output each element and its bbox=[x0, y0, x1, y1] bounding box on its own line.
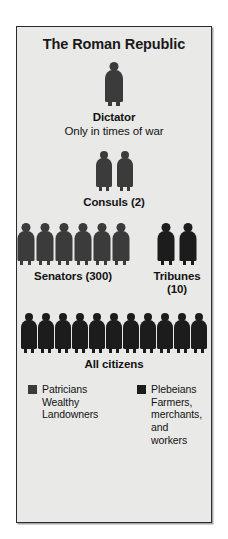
legend-item-patricians: Patricians Wealthy Landowners bbox=[28, 383, 113, 421]
tier-row-senators-tribunes: Senators (300) Tribunes (10) bbox=[17, 223, 211, 296]
person-leg-right bbox=[48, 348, 51, 353]
person-leg-right bbox=[65, 348, 68, 353]
person-leg-left bbox=[161, 260, 164, 265]
person-figure bbox=[17, 223, 34, 265]
person-leg-right bbox=[104, 260, 107, 265]
person-figure bbox=[96, 151, 112, 191]
person-body bbox=[123, 320, 139, 349]
person-leg-left bbox=[20, 260, 23, 265]
diagram-stack: The Roman Republic Dictator Only in time… bbox=[17, 27, 211, 522]
tier-label-tribunes: Tribunes (10) bbox=[143, 270, 211, 296]
person-body bbox=[105, 70, 123, 102]
person-body bbox=[55, 320, 71, 349]
person-figure bbox=[158, 223, 175, 265]
page-title: The Roman Republic bbox=[43, 37, 185, 53]
person-body bbox=[180, 231, 197, 261]
tier-tribunes: Tribunes (10) bbox=[143, 223, 211, 296]
figure-row-senators bbox=[17, 223, 129, 265]
person-leg-right bbox=[167, 348, 170, 353]
person-leg-right bbox=[106, 186, 109, 191]
person-body bbox=[117, 158, 133, 187]
tier-label-consuls: Consuls (2) bbox=[83, 196, 145, 209]
person-figure bbox=[36, 223, 53, 265]
person-body bbox=[93, 231, 110, 261]
person-leg-right bbox=[116, 348, 119, 353]
person-body bbox=[74, 231, 91, 261]
person-figure bbox=[38, 313, 54, 353]
person-body bbox=[96, 158, 112, 187]
person-leg-left bbox=[39, 260, 42, 265]
person-figure bbox=[55, 223, 72, 265]
legend-swatch-patricians bbox=[28, 385, 37, 394]
figure-row-consuls bbox=[96, 151, 133, 191]
diagram-frame: The Roman Republic Dictator Only in time… bbox=[16, 26, 212, 523]
person-leg-right bbox=[31, 348, 34, 353]
tier-sublabel-dictator: Only in times of war bbox=[65, 125, 164, 139]
person-body bbox=[112, 231, 129, 261]
person-leg-right bbox=[82, 348, 85, 353]
person-figure bbox=[74, 223, 91, 265]
person-leg-right bbox=[169, 260, 172, 265]
person-figure bbox=[55, 313, 71, 353]
person-leg-right bbox=[28, 260, 31, 265]
person-leg-right bbox=[133, 348, 136, 353]
person-body bbox=[38, 320, 54, 349]
person-leg-left bbox=[99, 186, 102, 191]
tier-dictator: Dictator Only in times of war bbox=[17, 62, 211, 139]
tier-consuls: Consuls (2) bbox=[17, 151, 211, 209]
person-leg-right bbox=[47, 260, 50, 265]
legend-desc-patricians: Wealthy Landowners bbox=[42, 396, 113, 422]
legend-item-plebeians: Plebeians Farmers, merchants, and worker… bbox=[137, 383, 202, 447]
person-leg-right bbox=[150, 348, 153, 353]
figure-row-tribunes bbox=[158, 223, 197, 265]
legend: Patricians Wealthy Landowners Plebeians … bbox=[17, 383, 211, 447]
person-figure bbox=[180, 223, 197, 265]
person-figure bbox=[157, 313, 173, 353]
person-body bbox=[158, 231, 175, 261]
person-leg-left bbox=[126, 348, 129, 353]
person-leg-left bbox=[108, 101, 112, 106]
person-leg-left bbox=[177, 348, 180, 353]
person-body bbox=[174, 320, 190, 349]
person-leg-left bbox=[143, 348, 146, 353]
person-leg-left bbox=[58, 260, 61, 265]
tier-senators: Senators (300) bbox=[17, 223, 129, 283]
legend-swatch-plebeians bbox=[137, 385, 146, 394]
figure-row-all-citizens bbox=[21, 313, 207, 353]
person-body bbox=[55, 231, 72, 261]
tier-label-dictator: Dictator bbox=[93, 111, 136, 124]
tier-label-all-citizens: All citizens bbox=[85, 358, 144, 371]
legend-desc-plebeians: Farmers, merchants, and workers bbox=[151, 396, 202, 447]
person-body bbox=[21, 320, 37, 349]
person-leg-right bbox=[191, 260, 194, 265]
person-figure bbox=[174, 313, 190, 353]
person-body bbox=[157, 320, 173, 349]
person-leg-left bbox=[115, 260, 118, 265]
person-leg-left bbox=[92, 348, 95, 353]
person-body bbox=[36, 231, 53, 261]
person-body bbox=[17, 231, 34, 261]
person-leg-left bbox=[194, 348, 197, 353]
tier-all-citizens: All citizens bbox=[17, 313, 211, 371]
legend-label-plebeians: Plebeians bbox=[151, 383, 202, 396]
person-figure bbox=[93, 223, 110, 265]
person-leg-right bbox=[99, 348, 102, 353]
person-leg-left bbox=[77, 260, 80, 265]
person-leg-left bbox=[96, 260, 99, 265]
person-leg-right bbox=[184, 348, 187, 353]
legend-label-patricians: Patricians bbox=[42, 383, 113, 396]
person-body bbox=[140, 320, 156, 349]
person-leg-right bbox=[85, 260, 88, 265]
person-leg-right bbox=[201, 348, 204, 353]
person-figure bbox=[105, 62, 123, 106]
person-leg-right bbox=[123, 260, 126, 265]
person-leg-left bbox=[58, 348, 61, 353]
person-leg-left bbox=[24, 348, 27, 353]
person-figure bbox=[123, 313, 139, 353]
person-leg-right bbox=[116, 101, 120, 106]
person-body bbox=[106, 320, 122, 349]
person-leg-right bbox=[66, 260, 69, 265]
person-figure bbox=[106, 313, 122, 353]
tier-label-senators: Senators (300) bbox=[34, 270, 112, 283]
figure-row-dictator bbox=[105, 62, 123, 106]
